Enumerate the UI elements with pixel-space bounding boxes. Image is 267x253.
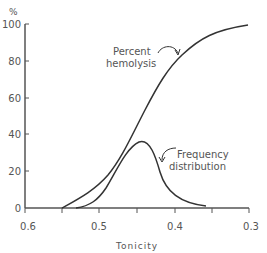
x-tick-0.5: 0.5 — [91, 221, 107, 232]
x-axis-label: Tonicity — [115, 241, 158, 251]
x-tick-0.3: 0.3 — [243, 221, 259, 232]
x-tick-0.4: 0.4 — [167, 221, 183, 232]
hemolysis-curve — [62, 25, 248, 208]
hemolysis-label-line2: hemolysis — [106, 58, 156, 69]
y-tick-40: 40 — [8, 129, 21, 140]
chart: % 100 80 60 40 20 0 0.6 0.5 0.4 0.3 Toni… — [0, 0, 267, 253]
frequency-label-line1: Frequency — [177, 149, 229, 160]
y-tick-60: 60 — [8, 93, 21, 104]
y-unit-label: % — [9, 7, 18, 17]
frequency-label-line2: distribution — [169, 161, 226, 172]
y-tick-0: 0 — [15, 203, 21, 214]
y-tick-20: 20 — [8, 166, 21, 177]
y-tick-100: 100 — [2, 19, 21, 30]
hemolysis-label-line1: Percent — [113, 46, 151, 57]
x-tick-0.6: 0.6 — [20, 221, 36, 232]
y-tick-80: 80 — [8, 56, 21, 67]
hemolysis-arrow — [158, 47, 178, 53]
